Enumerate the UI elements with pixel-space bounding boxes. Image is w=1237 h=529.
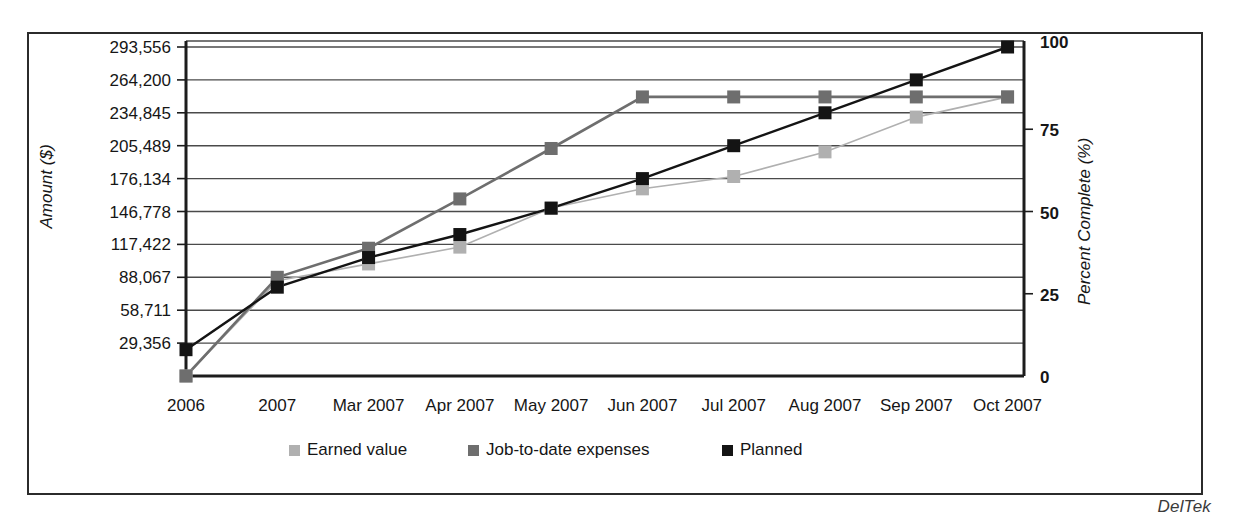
chart-frame (27, 32, 1203, 495)
chart-page: 293,556264,200234,845205,489176,134146,7… (0, 0, 1237, 529)
deltek-watermark: DelTek (1158, 497, 1212, 517)
